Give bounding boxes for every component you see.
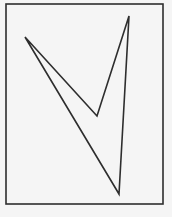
background: [0, 0, 172, 217]
diagram-canvas: [0, 0, 172, 217]
diagram-svg: [0, 0, 172, 217]
